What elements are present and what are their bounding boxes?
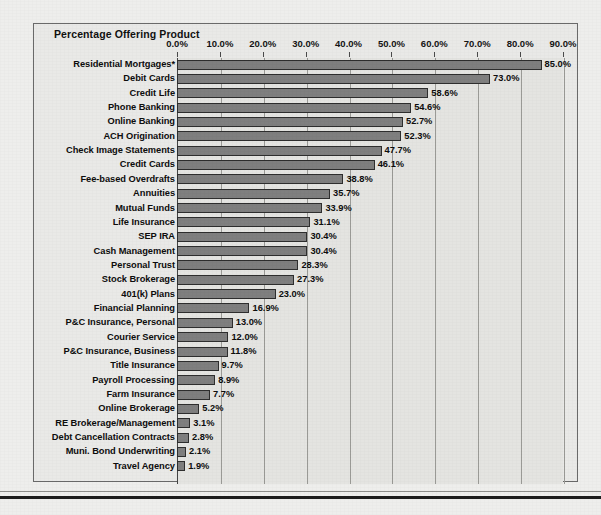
x-tick-2 [263, 52, 264, 57]
bar-value-label: 11.8% [231, 346, 257, 356]
category-label: 401(k) Plans [121, 289, 175, 299]
category-label: Cash Management [94, 246, 175, 256]
x-axis-label-row: 0.0%10.0%20.0%30.0%40.0%50.0%60.0%70.0%8… [34, 38, 579, 52]
bar-row: Debt Cancellation Contracts2.8% [34, 431, 579, 445]
bar-value-label: 7.7% [213, 389, 234, 399]
bar-value-label: 58.6% [431, 88, 457, 98]
bar-value-label: 8.9% [218, 375, 239, 385]
bar-row: Online Banking52.7% [34, 115, 579, 129]
x-tick-0 [177, 52, 178, 57]
category-label: Stock Brokerage [102, 274, 175, 284]
bar-row: Muni. Bond Underwriting2.1% [34, 445, 579, 459]
x-axis-tick-label: 0.0% [166, 38, 188, 49]
x-axis-tick-label: 60.0% [421, 38, 448, 49]
bar [177, 60, 542, 70]
bar [177, 160, 375, 170]
category-label: Credit Life [130, 88, 175, 98]
category-label: Payroll Processing [92, 375, 175, 385]
x-axis-tick-label: 10.0% [206, 38, 233, 49]
bar-value-label: 47.7% [385, 145, 411, 155]
bar-value-label: 2.8% [192, 432, 213, 442]
bar [177, 361, 219, 371]
bar-row: Travel Agency1.9% [34, 460, 579, 474]
x-axis-tick-label: 40.0% [335, 38, 362, 49]
footer-rule-thick [0, 496, 601, 499]
category-label: RE Brokerage/Management [55, 418, 175, 428]
bar-value-label: 13.0% [236, 317, 262, 327]
bar-row: ACH Origination52.3% [34, 130, 579, 144]
bar-value-label: 30.4% [310, 231, 336, 241]
bar [177, 146, 382, 156]
bar-value-label: 30.4% [310, 246, 336, 256]
bar-row: Credit Cards46.1% [34, 158, 579, 172]
bar [177, 289, 276, 299]
bar-value-label: 38.8% [346, 174, 372, 184]
bar-row: Life Insurance31.1% [34, 216, 579, 230]
category-label: Check Image Statements [66, 145, 175, 155]
bar [177, 418, 190, 428]
bar-row: Credit Life58.6% [34, 87, 579, 101]
bar-value-label: 54.6% [414, 102, 440, 112]
bar-value-label: 27.3% [297, 274, 323, 284]
category-label: Annuities [133, 188, 175, 198]
bar-row: Personal Trust28.3% [34, 259, 579, 273]
bar-value-label: 31.1% [313, 217, 339, 227]
bar-value-label: 12.0% [231, 332, 257, 342]
bar-row: Cash Management30.4% [34, 245, 579, 259]
category-label: Credit Cards [120, 159, 175, 169]
x-axis-tick-label: 80.0% [507, 38, 534, 49]
x-axis-tick-label: 90.0% [550, 38, 577, 49]
bar [177, 117, 403, 127]
category-label: Debt Cancellation Contracts [52, 432, 175, 442]
category-label: Mutual Funds [115, 203, 175, 213]
bar-value-label: 2.1% [189, 446, 210, 456]
bar [177, 88, 428, 98]
bar [177, 189, 330, 199]
bar-row: SEP IRA30.4% [34, 230, 579, 244]
bar-value-label: 16.9% [252, 303, 278, 313]
bar-value-label: 5.2% [202, 403, 223, 413]
category-label: P&C Insurance, Personal [66, 317, 175, 327]
x-tick-4 [349, 52, 350, 57]
bar [177, 461, 185, 471]
bar [177, 74, 490, 84]
x-axis-tick-label: 70.0% [464, 38, 491, 49]
bar-row: Stock Brokerage27.3% [34, 273, 579, 287]
bar-value-label: 85.0% [545, 59, 571, 69]
bar [177, 203, 322, 213]
bar [177, 318, 233, 328]
category-label: Travel Agency [113, 461, 175, 471]
bar [177, 275, 294, 285]
bar-row: 401(k) Plans23.0% [34, 288, 579, 302]
x-tick-3 [306, 52, 307, 57]
bar-row: P&C Insurance, Personal13.0% [34, 316, 579, 330]
bar [177, 347, 228, 357]
bar-row: Title Insurance9.7% [34, 359, 579, 373]
bar-row: P&C Insurance, Business11.8% [34, 345, 579, 359]
bar-row: Residential Mortgages*85.0% [34, 58, 579, 72]
bar-row: Farm Insurance7.7% [34, 388, 579, 402]
bar [177, 246, 307, 256]
bar-row: Fee-based Overdrafts38.8% [34, 173, 579, 187]
category-label: Residential Mortgages* [73, 59, 175, 69]
bar [177, 103, 411, 113]
x-axis-tick-label: 50.0% [378, 38, 405, 49]
bar [177, 332, 228, 342]
bar [177, 217, 310, 227]
bar-row: RE Brokerage/Management3.1% [34, 417, 579, 431]
bar-value-label: 35.7% [333, 188, 359, 198]
bar [177, 260, 298, 270]
x-tick-5 [391, 52, 392, 57]
bar [177, 174, 343, 184]
category-label: SEP IRA [138, 231, 175, 241]
category-label: Title Insurance [110, 360, 175, 370]
category-label: Financial Planning [94, 303, 175, 313]
x-axis-tick-label: 20.0% [249, 38, 276, 49]
bar [177, 375, 215, 385]
x-tick-6 [434, 52, 435, 57]
category-label: Muni. Bond Underwriting [66, 446, 175, 456]
bar-value-label: 1.9% [188, 461, 209, 471]
chart-frame: Percentage Offering Product 0.0%10.0%20.… [33, 23, 578, 482]
bar-value-label: 28.3% [301, 260, 327, 270]
bar-row: Mutual Funds33.9% [34, 202, 579, 216]
